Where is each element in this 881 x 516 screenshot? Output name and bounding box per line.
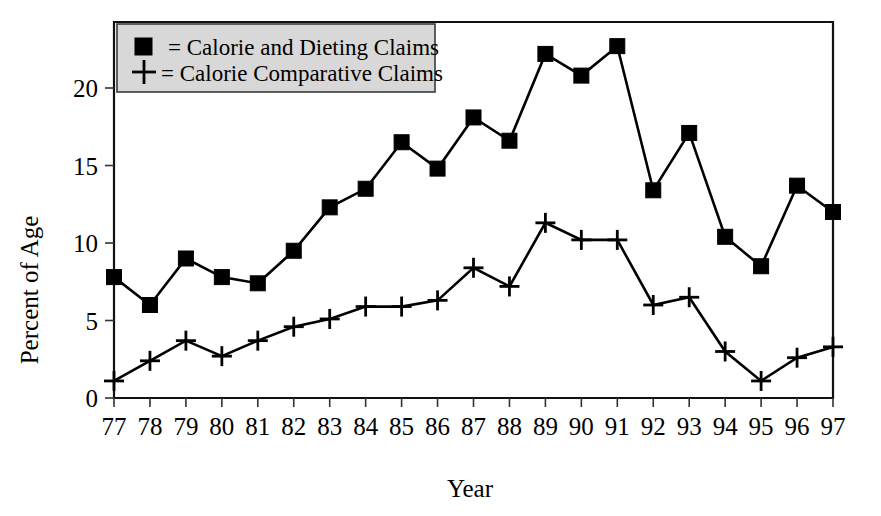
data-point-square-marker (178, 251, 193, 266)
y-axis-tick-label: 15 (73, 153, 98, 180)
chart-figure: 05101520 7778798081828384858687888990919… (0, 0, 881, 516)
data-point-square-marker (142, 298, 157, 313)
chart-legend: = Calorie and Dieting Claims = Calorie C… (117, 24, 443, 92)
data-point-square-marker (790, 178, 805, 193)
legend-label-calorie-comparative-claims: = Calorie Comparative Claims (161, 61, 443, 86)
data-point-square-marker (826, 205, 841, 220)
data-point-square-marker (358, 181, 373, 196)
data-point-square-marker (107, 270, 122, 285)
x-axis-tick-label: 90 (569, 413, 594, 440)
x-axis-title: Year (447, 475, 494, 502)
x-axis-tick-label: 79 (173, 413, 198, 440)
x-axis-tick-label: 89 (533, 413, 558, 440)
y-axis-tick-label: 0 (86, 385, 99, 412)
data-point-square-marker (538, 46, 553, 61)
x-axis-tick-label: 77 (102, 413, 127, 440)
x-axis-tick-label: 96 (785, 413, 810, 440)
line-chart: 05101520 7778798081828384858687888990919… (0, 0, 881, 516)
data-point-square-marker (754, 259, 769, 274)
y-axis-ticks (105, 88, 114, 398)
x-axis-tick-label: 87 (461, 413, 486, 440)
data-point-square-marker (286, 243, 301, 258)
legend-label-calorie-dieting-claims: = Calorie and Dieting Claims (168, 35, 439, 60)
y-axis-tick-label: 10 (73, 230, 98, 257)
x-axis-ticks (114, 398, 833, 407)
data-point-square-marker (682, 125, 697, 140)
x-axis-tick-label: 78 (137, 413, 162, 440)
square-marker-icon (135, 38, 152, 55)
data-point-square-marker (646, 183, 661, 198)
x-axis-tick-label: 86 (425, 413, 450, 440)
x-axis-tick-labels: 7778798081828384858687888990919293949596… (102, 413, 846, 440)
x-axis-tick-label: 94 (713, 413, 739, 440)
y-axis-title: Percent of Age (16, 216, 43, 365)
data-point-square-marker (574, 68, 589, 83)
y-axis-tick-label: 5 (86, 308, 99, 335)
data-point-square-marker (466, 110, 481, 125)
x-axis-tick-label: 91 (605, 413, 630, 440)
x-axis-tick-label: 85 (389, 413, 414, 440)
data-point-square-marker (214, 270, 229, 285)
x-axis-tick-label: 80 (209, 413, 234, 440)
data-point-square-marker (610, 39, 625, 54)
data-point-square-marker (430, 161, 445, 176)
data-point-square-marker (250, 276, 265, 291)
x-axis-tick-label: 83 (317, 413, 342, 440)
x-axis-tick-label: 93 (677, 413, 702, 440)
x-axis-tick-label: 81 (245, 413, 270, 440)
data-point-square-marker (718, 229, 733, 244)
data-point-square-marker (322, 200, 337, 215)
x-axis-tick-label: 97 (821, 413, 846, 440)
y-axis-tick-label: 20 (73, 75, 98, 102)
y-axis-tick-labels: 05101520 (73, 75, 98, 412)
data-point-square-marker (394, 135, 409, 150)
data-point-square-marker (502, 133, 517, 148)
x-axis-tick-label: 84 (353, 413, 379, 440)
x-axis-tick-label: 82 (281, 413, 306, 440)
x-axis-tick-label: 92 (641, 413, 666, 440)
x-axis-tick-label: 88 (497, 413, 522, 440)
x-axis-tick-label: 95 (749, 413, 774, 440)
